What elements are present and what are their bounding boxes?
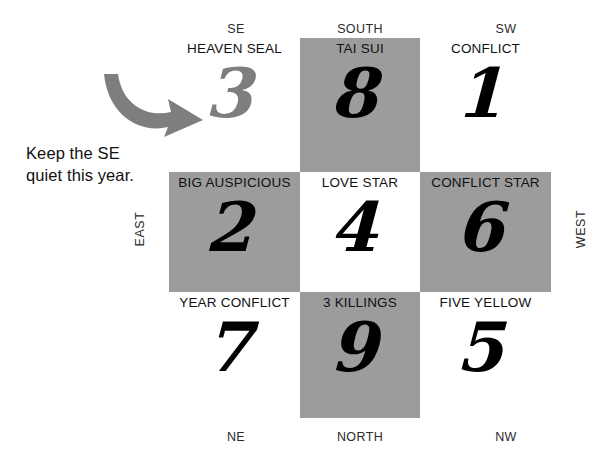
grid-cell-center[interactable]: LOVE STAR 4 <box>300 172 420 292</box>
cell-number: 8 <box>334 59 386 127</box>
cell-number: 6 <box>459 193 511 261</box>
grid-cell-north[interactable]: 3 KILLINGS 9 <box>300 292 420 418</box>
cell-number: 2 <box>208 193 260 261</box>
cell-number: 1 <box>459 59 511 127</box>
cell-number: 4 <box>334 193 386 261</box>
grid-cell-east[interactable]: BIG AUSPICIOUS 2 <box>169 172 300 292</box>
cell-number: 7 <box>208 313 260 381</box>
grid-cell-se[interactable]: HEAVEN SEAL 3 <box>169 38 300 172</box>
cell-number: 5 <box>459 313 511 381</box>
compass-label-se: SE <box>206 22 266 36</box>
compass-label-south: SOUTH <box>330 22 390 36</box>
annotation-note: Keep the SE quiet this year. <box>26 142 176 187</box>
compass-label-west: WEST <box>574 210 588 249</box>
compass-label-ne: NE <box>206 430 266 444</box>
grid-cell-ne[interactable]: YEAR CONFLICT 7 <box>169 292 300 418</box>
flying-star-chart: SE SOUTH SW NE NORTH NW EAST WEST Keep t… <box>0 0 613 463</box>
cell-number: 9 <box>334 313 386 381</box>
star-grid: HEAVEN SEAL 3 TAI SUI 8 CONFLICT 1 BIG A… <box>169 38 551 418</box>
cell-number: 3 <box>208 59 260 127</box>
compass-label-east: EAST <box>133 211 147 246</box>
grid-cell-west[interactable]: CONFLICT STAR 6 <box>420 172 551 292</box>
grid-cell-south[interactable]: TAI SUI 8 <box>300 38 420 172</box>
compass-label-sw: SW <box>476 22 536 36</box>
annotation-line-1: Keep the SE <box>26 142 176 164</box>
annotation-line-2: quiet this year. <box>26 164 176 186</box>
grid-cell-nw[interactable]: FIVE YELLOW 5 <box>420 292 551 418</box>
grid-cell-sw[interactable]: CONFLICT 1 <box>420 38 551 172</box>
compass-label-north: NORTH <box>330 430 390 444</box>
compass-label-nw: NW <box>476 430 536 444</box>
